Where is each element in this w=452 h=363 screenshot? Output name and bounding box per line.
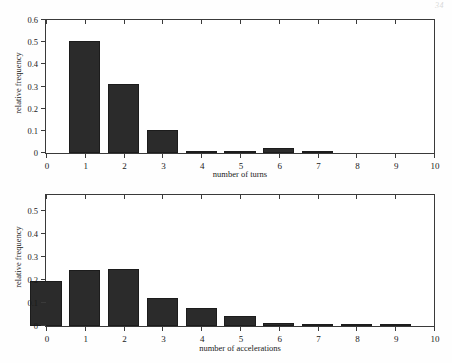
x-tick-top-turns-0 — [46, 20, 47, 24]
x-tick-turns-10: 10 — [434, 153, 435, 158]
x-tick-top-accel-5 — [240, 195, 241, 199]
y-tick-label-turns-4: 0.4 — [27, 59, 38, 69]
bar-turns-2 — [108, 84, 139, 153]
y-tick-turns-2: 0.2 — [41, 108, 46, 109]
figure-accelerations-histogram: relative frequency 00.10.20.30.40.501234… — [0, 186, 452, 363]
x-tick-top-accel-3 — [162, 195, 163, 199]
plot-area-accelerations: 00.10.20.30.40.5012345678910 — [45, 194, 435, 327]
x-tick-top-accel-10 — [434, 195, 435, 199]
x-tick-top-accel-0 — [46, 195, 47, 199]
x-tick-accel-7: 7 — [318, 326, 319, 331]
y-tick-accel-3: 0.3 — [41, 256, 46, 257]
x-tick-top-accel-7 — [318, 195, 319, 199]
x-tick-top-accel-9 — [395, 195, 396, 199]
y-tick-label-accel-0: 0 — [34, 321, 38, 331]
x-tick-top-turns-5 — [240, 20, 241, 24]
x-tick-turns-7: 7 — [318, 153, 319, 158]
x-tick-top-turns-1 — [85, 20, 86, 24]
y-tick-turns-1: 0.1 — [41, 130, 46, 131]
x-tick-top-turns-4 — [201, 20, 202, 24]
x-tick-turns-8: 8 — [356, 153, 357, 158]
y-tick-label-turns-5: 0.5 — [27, 37, 38, 47]
x-tick-turns-9: 9 — [395, 153, 396, 158]
x-tick-accel-5: 5 — [240, 326, 241, 331]
x-tick-turns-2: 2 — [124, 153, 125, 158]
x-tick-top-turns-6 — [279, 20, 280, 24]
x-tick-top-turns-8 — [356, 20, 357, 24]
y-tick-turns-4: 0.4 — [41, 63, 46, 64]
bar-series-accelerations — [46, 195, 434, 326]
y-tick-label-accel-2: 0.2 — [27, 275, 38, 285]
x-tick-turns-3: 3 — [162, 153, 163, 158]
bar-turns-3 — [147, 130, 178, 153]
y-tick-label-turns-2: 0.2 — [27, 104, 38, 114]
y-tick-label-accel-5: 0.5 — [27, 206, 38, 216]
y-tick-label-turns-3: 0.3 — [27, 82, 38, 92]
x-tick-accel-6: 6 — [279, 326, 280, 331]
x-tick-top-turns-3 — [162, 20, 163, 24]
page-number: 34 — [435, 1, 444, 10]
y-tick-accel-4: 0.4 — [41, 233, 46, 234]
x-tick-top-turns-7 — [318, 20, 319, 24]
x-tick-accel-4: 4 — [201, 326, 202, 331]
y-tick-turns-3: 0.3 — [41, 86, 46, 87]
y-tick-accel-2: 0.2 — [41, 279, 46, 280]
bar-accel-1 — [69, 270, 100, 326]
y-tick-accel-5: 0.5 — [41, 210, 46, 211]
y-tick-label-accel-4: 0.4 — [27, 229, 38, 239]
x-tick-accel-0: 0 — [46, 326, 47, 331]
x-tick-turns-6: 6 — [279, 153, 280, 158]
x-tick-turns-1: 1 — [85, 153, 86, 158]
x-tick-accel-9: 9 — [395, 326, 396, 331]
y-tick-turns-5: 0.5 — [41, 41, 46, 42]
x-tick-top-turns-2 — [124, 20, 125, 24]
y-axis-label-accelerations: relative frequency — [13, 212, 23, 302]
x-tick-accel-8: 8 — [356, 326, 357, 331]
figure-turns-histogram: relative frequency 00.10.20.30.40.50.601… — [0, 10, 452, 185]
x-tick-top-accel-8 — [356, 195, 357, 199]
x-tick-accel-2: 2 — [124, 326, 125, 331]
x-tick-top-accel-1 — [85, 195, 86, 199]
bar-accel-3 — [147, 298, 178, 326]
x-tick-top-turns-9 — [395, 20, 396, 24]
x-tick-accel-3: 3 — [162, 326, 163, 331]
bar-series-turns — [46, 20, 434, 153]
x-tick-turns-0: 0 — [46, 153, 47, 158]
x-axis-label-accelerations: number of accelerations — [45, 343, 435, 353]
x-tick-top-turns-10 — [434, 20, 435, 24]
bar-turns-1 — [69, 41, 100, 153]
x-tick-top-accel-4 — [201, 195, 202, 199]
x-tick-accel-10: 10 — [434, 326, 435, 331]
document-page: 34 relative frequency 00.10.20.30.40.50.… — [0, 0, 452, 363]
y-tick-label-turns-1: 0.1 — [27, 126, 38, 136]
x-axis-label-turns: number of turns — [45, 169, 435, 179]
y-tick-label-turns-0: 0 — [34, 148, 38, 158]
x-tick-top-accel-6 — [279, 195, 280, 199]
bar-accel-5 — [224, 316, 255, 326]
x-tick-top-accel-2 — [124, 195, 125, 199]
plot-area-turns: 00.10.20.30.40.50.6012345678910 — [45, 19, 435, 154]
bar-accel-4 — [186, 308, 217, 326]
x-tick-turns-5: 5 — [240, 153, 241, 158]
y-tick-accel-1: 0.1 — [41, 302, 46, 303]
y-tick-label-turns-6: 0.6 — [27, 15, 38, 25]
bar-accel-2 — [108, 269, 139, 326]
x-tick-accel-1: 1 — [85, 326, 86, 331]
y-tick-label-accel-3: 0.3 — [27, 252, 38, 262]
x-tick-turns-4: 4 — [201, 153, 202, 158]
y-axis-label-turns: relative frequency — [13, 38, 23, 128]
y-tick-label-accel-1: 0.1 — [27, 298, 38, 308]
